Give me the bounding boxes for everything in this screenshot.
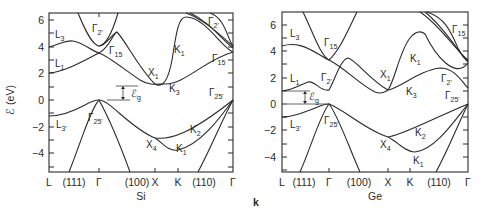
si-xtick-gamma: Γ: [96, 176, 102, 188]
svg-text:K1: K1: [413, 155, 424, 168]
si-band-curves: [49, 13, 233, 172]
si-xtick-110: (110): [192, 176, 216, 188]
ge-xtick-gamma-end: Γ: [465, 176, 471, 188]
svg-text:K1: K1: [174, 44, 185, 57]
svg-text:L3: L3: [55, 29, 65, 42]
ge-xtick-111: (111): [293, 176, 316, 188]
shared-k-axis-label: k: [253, 196, 259, 208]
si-y-tick-labels: 6 4 2 0 −2 −4: [32, 14, 44, 159]
si-plot-frame: [49, 13, 233, 172]
ge-ytick-neg2: −2: [264, 124, 276, 136]
si-band-labels: L3 L1 L3' Γ2' Γ15 Γ25' ℰg X1 X4 K1 K3 K2…: [55, 16, 225, 156]
si-ytick-0: 0: [38, 94, 44, 106]
svg-text:L3': L3': [290, 119, 301, 132]
ge-xtick-110: (110): [427, 176, 451, 188]
ge-panel: 6 4 2 0 −2 −4 L (111) Γ (100) X K (110) …: [264, 12, 471, 202]
si-ytick-6: 6: [38, 14, 44, 26]
si-xtick-L: L: [46, 176, 52, 188]
svg-text:X1: X1: [380, 69, 391, 82]
ge-xtick-L: L: [279, 176, 285, 188]
svg-text:L3': L3': [56, 119, 67, 132]
svg-text:K1: K1: [410, 53, 421, 66]
si-xtick-K: K: [174, 176, 181, 188]
svg-text:Γ2': Γ2': [92, 23, 103, 36]
ge-x-tick-labels: L (111) Γ (100) X K (110) Γ Ge: [279, 176, 471, 202]
svg-text:Γ2': Γ2': [321, 72, 332, 85]
ge-xtick-100: (100): [347, 176, 372, 188]
si-xtick-111: (111): [63, 176, 86, 188]
si-ytick-neg4: −4: [32, 147, 44, 159]
svg-text:Γ25': Γ25': [209, 87, 224, 100]
si-y-ticks: [49, 13, 233, 172]
ge-panel-label: Ge: [368, 190, 382, 202]
band-structure-figure: 6 4 2 0 −2 −4 L (111) Γ (100) X K (110) …: [0, 0, 490, 213]
si-ytick-4: 4: [38, 41, 44, 53]
svg-text:K2: K2: [415, 127, 426, 140]
ge-band-labels: L3 L1 L3' Γ15 Γ2' Γ25' ℰg X1 X4 K1 K3 K2…: [290, 24, 465, 168]
ge-y-tick-labels: 6 4 2 0 −2 −4: [264, 19, 276, 163]
ge-ytick-6: 6: [270, 19, 276, 31]
si-panel-label: Si: [136, 190, 145, 202]
ge-xtick-X: X: [384, 176, 391, 188]
svg-text:Γ25': Γ25': [445, 90, 460, 103]
svg-text:Γ2': Γ2': [441, 73, 452, 86]
ge-eg-label: ℰg: [309, 91, 319, 105]
svg-text:K2: K2: [190, 124, 201, 137]
svg-text:Γ15: Γ15: [452, 24, 465, 37]
svg-text:Γ15: Γ15: [109, 45, 122, 58]
svg-text:Γ25': Γ25': [88, 112, 103, 125]
svg-text:X4: X4: [146, 139, 157, 152]
ge-ytick-neg4: −4: [264, 151, 276, 163]
si-ytick-2: 2: [38, 67, 44, 79]
si-xtick-X: X: [151, 176, 158, 188]
svg-text:Γ15: Γ15: [324, 37, 337, 50]
svg-text:Γ15: Γ15: [212, 53, 225, 66]
ge-ytick-2: 2: [270, 72, 276, 84]
si-y-axis-label: ℰ (eV): [4, 85, 16, 115]
si-panel: 6 4 2 0 −2 −4 L (111) Γ (100) X K (110) …: [4, 13, 236, 202]
ge-xtick-K: K: [406, 176, 413, 188]
si-ytick-neg2: −2: [32, 121, 44, 133]
si-xtick-gamma-end: Γ: [230, 176, 236, 188]
ge-xtick-gamma: Γ: [326, 176, 332, 188]
svg-text:L3: L3: [290, 28, 300, 41]
svg-text:K3: K3: [406, 86, 417, 99]
svg-text:K1: K1: [176, 143, 187, 156]
si-eg-label: ℰg: [131, 88, 141, 102]
si-xtick-100: (100): [125, 176, 150, 188]
ge-ytick-4: 4: [270, 45, 276, 57]
svg-text:X4: X4: [380, 139, 391, 152]
svg-text:L1: L1: [290, 73, 300, 86]
svg-text:K3: K3: [169, 83, 180, 96]
ge-ytick-0: 0: [270, 98, 276, 110]
si-x-tick-labels: L (111) Γ (100) X K (110) Γ Si: [46, 176, 236, 202]
svg-text:L1: L1: [55, 58, 65, 71]
